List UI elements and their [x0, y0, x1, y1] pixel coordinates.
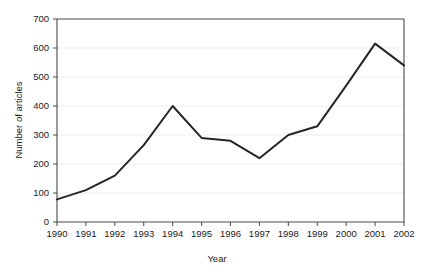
- x-tick-label-1995: 1995: [191, 228, 212, 239]
- chart-figure: 0100200300400500600700 19901991199219931…: [0, 0, 430, 278]
- y-tick-label-500: 500: [33, 71, 49, 82]
- x-tick-label-1990: 1990: [46, 228, 67, 239]
- x-tick-label-2000: 2000: [336, 228, 357, 239]
- x-tick-label-2001: 2001: [365, 228, 386, 239]
- y-tick-label-200: 200: [33, 158, 49, 169]
- x-axis-title: Year: [207, 253, 226, 264]
- line-chart: 0100200300400500600700 19901991199219931…: [0, 0, 430, 278]
- x-tick-label-1994: 1994: [162, 228, 183, 239]
- y-tick-label-100: 100: [33, 187, 49, 198]
- x-tick-label-1997: 1997: [249, 228, 270, 239]
- x-tick-label-1998: 1998: [278, 228, 299, 239]
- x-tick-label-1993: 1993: [133, 228, 154, 239]
- y-tick-label-300: 300: [33, 129, 49, 140]
- x-tick-label-1991: 1991: [75, 228, 96, 239]
- y-tick-label-0: 0: [44, 216, 49, 227]
- y-tick-label-400: 400: [33, 100, 49, 111]
- y-tick-label-700: 700: [33, 13, 49, 24]
- x-tick-label-2002: 2002: [393, 228, 414, 239]
- y-tick-label-600: 600: [33, 42, 49, 53]
- x-tick-label-1992: 1992: [104, 228, 125, 239]
- x-tick-label-1996: 1996: [220, 228, 241, 239]
- y-axis-title: Number of articles: [13, 81, 24, 158]
- x-tick-label-1999: 1999: [307, 228, 328, 239]
